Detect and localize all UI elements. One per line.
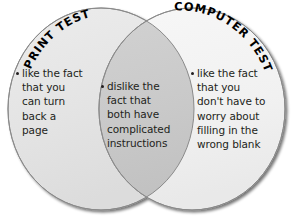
bullet-icon [101,85,104,88]
bullet-icon [16,72,19,75]
intersection-item-text: dislike the fact that both have complica… [107,79,170,150]
right-set-item: like the fact that you don't have to wor… [191,66,283,151]
intersection-item: dislike the fact that both have complica… [101,79,181,150]
bullet-icon [191,72,194,75]
right-set-item-text: like the fact that you don't have to wor… [197,66,265,151]
left-set-item-text: like the fact that you can turn back a p… [22,66,83,137]
venn-diagram: PRINT TEST COMPUTER TEST like the fact t… [0,0,293,223]
left-set-item: like the fact that you can turn back a p… [16,66,94,137]
venn-text-layer: like the fact that you can turn back a p… [0,0,293,223]
